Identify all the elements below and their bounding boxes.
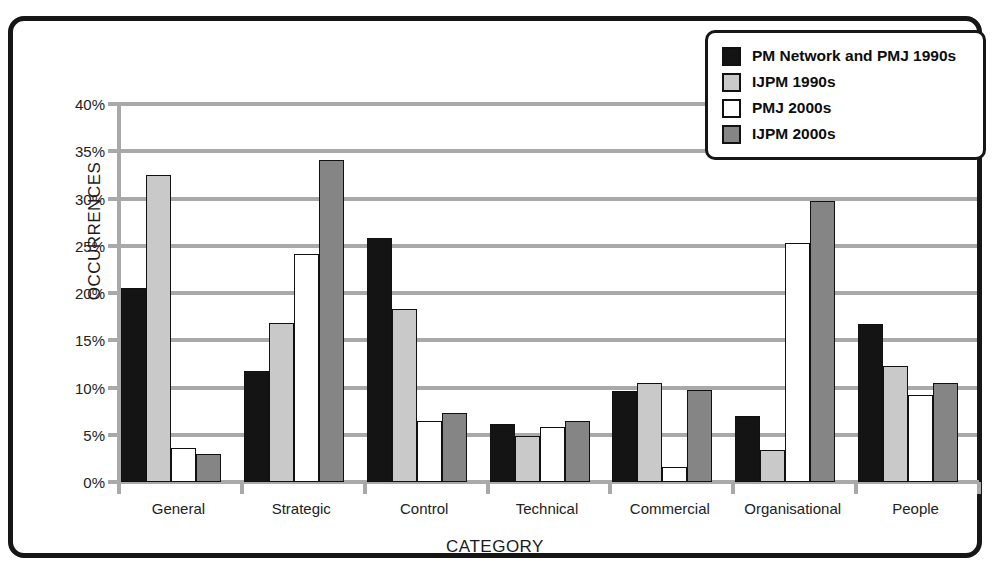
value-axis-tick — [108, 244, 119, 248]
bar — [319, 160, 344, 482]
category-axis-tick-label: Organisational — [744, 500, 841, 517]
legend-swatch-icon — [722, 47, 741, 66]
bar — [269, 323, 294, 482]
bar — [171, 448, 196, 482]
legend-swatch-icon — [722, 99, 741, 118]
bar — [417, 421, 442, 482]
bar — [392, 309, 417, 482]
bar — [760, 450, 785, 482]
value-axis-tick-label: 40% — [53, 96, 105, 113]
category-axis-tick — [240, 482, 244, 494]
legend-swatch-icon — [722, 125, 741, 144]
bar — [662, 467, 687, 482]
bar — [146, 175, 171, 482]
category-axis-tick-label: General — [152, 500, 205, 517]
bar — [687, 390, 712, 482]
bar — [933, 383, 958, 482]
chart-legend: PM Network and PMJ 1990sIJPM 1990sPMJ 20… — [705, 30, 986, 160]
bar — [540, 427, 565, 482]
value-axis-tick-label: 25% — [53, 237, 105, 254]
category-axis-tick — [977, 482, 981, 494]
bar — [785, 243, 810, 482]
bar — [810, 201, 835, 482]
bar — [121, 288, 146, 482]
legend-item: PM Network and PMJ 1990s — [722, 43, 971, 69]
value-axis-tick-label: 35% — [53, 143, 105, 160]
plot-area — [117, 104, 977, 482]
bar — [908, 395, 933, 482]
value-axis-tick — [108, 386, 119, 390]
category-axis-tick-label: People — [892, 500, 939, 517]
bar — [294, 254, 319, 482]
category-axis-tick-label: Strategic — [272, 500, 331, 517]
legend-item-label: PM Network and PMJ 1990s — [752, 47, 956, 65]
bar — [612, 391, 637, 482]
category-axis-tick — [731, 482, 735, 494]
value-axis-tick — [108, 291, 119, 295]
gridline — [117, 197, 977, 201]
value-axis-tick — [108, 338, 119, 342]
bar — [735, 416, 760, 482]
bar — [565, 421, 590, 482]
value-axis-tick-label: 5% — [53, 426, 105, 443]
value-axis-tick — [108, 433, 119, 437]
legend-item-label: IJPM 2000s — [752, 125, 836, 143]
value-axis-tick-label: 30% — [53, 190, 105, 207]
bar — [637, 383, 662, 482]
legend-item-label: IJPM 1990s — [752, 73, 836, 91]
figure-frame: OCCURRENCES 0%5%10%15%20%25%30%35%40% Ge… — [8, 16, 982, 558]
legend-item-label: PMJ 2000s — [752, 99, 831, 117]
category-axis-tick — [854, 482, 858, 494]
value-axis-tick — [108, 102, 119, 106]
bar — [442, 413, 467, 482]
category-axis-tick — [486, 482, 490, 494]
value-axis-tick-label: 0% — [53, 474, 105, 491]
bar — [244, 371, 269, 482]
bar — [367, 238, 392, 482]
value-axis-tick — [108, 197, 119, 201]
bar — [196, 454, 221, 482]
category-axis-tick-label: Control — [400, 500, 448, 517]
category-axis-tick-label: Technical — [516, 500, 579, 517]
gridline — [117, 338, 977, 342]
legend-item: PMJ 2000s — [722, 95, 971, 121]
bar — [858, 324, 883, 482]
bar — [515, 436, 540, 482]
category-axis-tick-label: Commercial — [630, 500, 710, 517]
legend-item: IJPM 2000s — [722, 121, 971, 147]
value-axis-tick-label: 20% — [53, 285, 105, 302]
gridline — [117, 244, 977, 248]
category-axis-title: CATEGORY — [13, 537, 977, 557]
category-axis-tick — [608, 482, 612, 494]
legend-swatch-icon — [722, 73, 741, 92]
legend-item: IJPM 1990s — [722, 69, 971, 95]
value-axis-tick-labels: 0%5%10%15%20%25%30%35%40% — [45, 21, 105, 585]
bar — [490, 424, 515, 482]
category-axis-tick — [363, 482, 367, 494]
gridline — [117, 291, 977, 295]
value-axis-tick — [108, 480, 119, 484]
value-axis-tick-label: 15% — [53, 332, 105, 349]
value-axis-tick-label: 10% — [53, 379, 105, 396]
value-axis-tick — [108, 149, 119, 153]
bar — [883, 366, 908, 482]
